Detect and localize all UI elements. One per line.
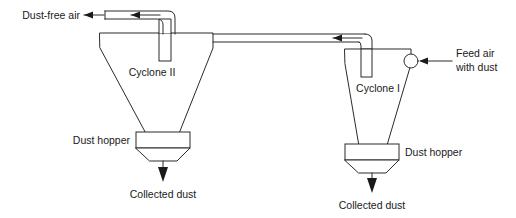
feed-air-valve-icon — [404, 54, 418, 68]
interstage-duct — [213, 34, 372, 49]
feed-air-inlet — [404, 54, 452, 68]
collected-dust-left-arrow-icon — [158, 167, 168, 182]
label-collected-dust-left: Collected dust — [130, 188, 197, 200]
cyclone-one-vortex-tube — [361, 49, 372, 77]
cyclone-one-body — [345, 49, 411, 152]
label-collected-dust-right: Collected dust — [339, 199, 406, 211]
label-dust-free-air: Dust-free air — [22, 9, 80, 21]
label-dust-hopper-left: Dust hopper — [73, 134, 131, 146]
cyclone-two-group — [100, 19, 213, 141]
feed-air-arrow-icon — [419, 58, 428, 65]
dust-hopper-left-group — [136, 132, 190, 182]
label-cyclone-two: Cyclone II — [129, 66, 176, 78]
dust-hopper-left-box — [136, 132, 190, 148]
label-feed-air-line2: with dust — [455, 61, 498, 73]
dust-hopper-right-group — [345, 144, 399, 193]
cyclone-separator-diagram: Dust-free air Cyclone II Cyclone I Feed … — [0, 0, 516, 218]
cyclone-two-vortex-finder — [159, 19, 171, 61]
interstage-duct-elbow-inner — [359, 42, 361, 49]
dust-free-air-duct-inner — [105, 19, 163, 34]
dust-hopper-right-box — [345, 144, 399, 160]
label-feed-air-line1: Feed air — [456, 47, 495, 59]
dust-free-air-leader-arrow-icon — [84, 12, 93, 19]
dust-hopper-left-cone — [136, 148, 190, 161]
cyclone-two-vortex-tube — [159, 33, 171, 61]
diagram-canvas: Dust-free air Cyclone II Cyclone I Feed … — [0, 0, 516, 218]
dust-hopper-right-cone — [345, 160, 399, 173]
cyclone-one-group — [345, 49, 411, 152]
label-cyclone-one: Cyclone I — [356, 82, 400, 94]
interstage-flow-arrow-icon — [333, 35, 342, 42]
collected-dust-right-arrow-icon — [367, 178, 377, 193]
dust-free-air-flow-arrow-icon — [131, 12, 140, 19]
label-dust-hopper-right: Dust hopper — [405, 146, 463, 158]
interstage-duct-elbow-outer — [365, 34, 372, 49]
cyclone-two-riser — [159, 19, 171, 33]
cyclone-two-body — [100, 33, 213, 141]
